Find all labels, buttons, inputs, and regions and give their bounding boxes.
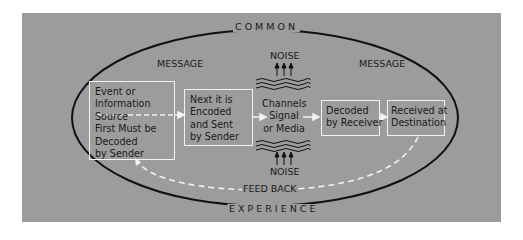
received-box: Received at Destination <box>387 100 445 136</box>
channel-line: Channels <box>262 98 306 110</box>
box-line: Decoded <box>95 136 169 148</box>
message-label-right: MESSAGE <box>359 59 405 69</box>
box-line: Destination <box>391 117 441 129</box>
channel-line: or Media <box>262 123 306 135</box>
box-line: Encoded <box>190 106 247 118</box>
noise-label-bottom: NOISE <box>270 167 299 177</box>
event-source-box: Event or Information Source First Must b… <box>89 81 175 160</box>
noise-waves-bottom <box>256 141 310 152</box>
decoded-box: Decoded by Receiver <box>321 100 380 136</box>
box-line: Decoded <box>326 105 375 117</box>
feedback-label: FEED BACK <box>242 184 298 194</box>
noise-waves-top <box>256 79 310 90</box>
box-line: by Receiver <box>326 117 375 129</box>
channel-line: Signal <box>262 110 306 122</box>
experience-label: EXPERIENCE <box>227 204 320 214</box>
box-line: Received at <box>391 105 441 117</box>
encoded-box: Next it is Encoded and Sent by Sender <box>184 89 253 146</box>
box-line: and Sent <box>190 119 247 131</box>
box-line: Event or <box>95 86 169 98</box>
box-line: Next it is <box>190 94 247 106</box>
channel-label: Channels Signal or Media <box>262 98 306 135</box>
box-line: Source <box>95 111 169 123</box>
box-line: by Sender <box>95 148 169 160</box>
box-line: Information <box>95 98 169 110</box>
message-label-left: MESSAGE <box>157 59 203 69</box>
common-label: COMMON <box>233 22 300 32</box>
box-line: by Sender <box>190 131 247 143</box>
noise-label-top: NOISE <box>270 51 299 61</box>
box-line: First Must be <box>95 123 169 135</box>
noise-arrows-top <box>275 63 293 76</box>
noise-arrows-bottom <box>275 152 293 165</box>
